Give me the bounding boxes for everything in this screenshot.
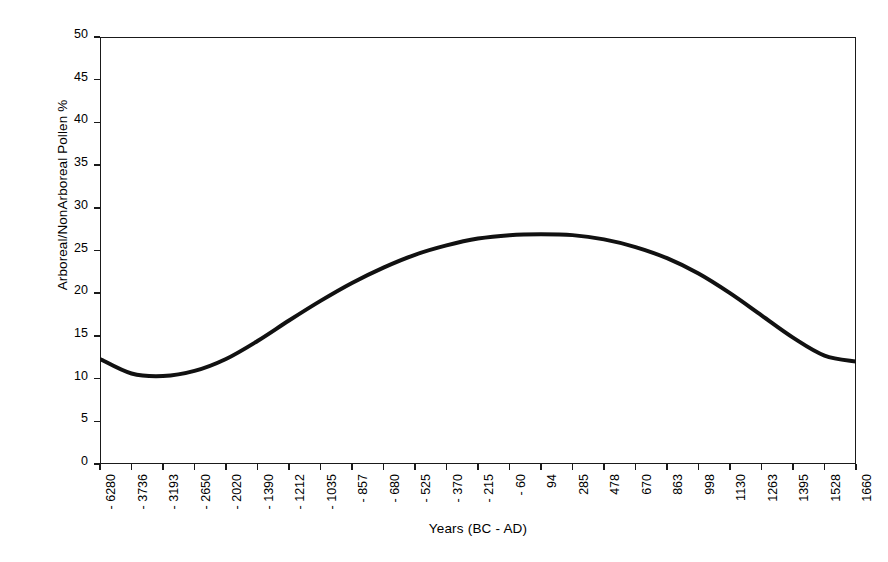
x-axis-tick-mark [225,464,227,470]
y-axis-tick-label: 35 [74,156,88,169]
y-axis-tick-label: 20 [74,284,88,297]
x-axis-tick-label: 998 [704,474,717,495]
x-axis-tick-mark [698,464,700,470]
x-axis-tick-mark [99,464,101,470]
x-axis-tick-label: - 680 [389,474,402,503]
x-axis-tick-label: - 1390 [263,474,276,509]
x-axis-tick-mark [729,464,731,470]
x-axis-tick-mark [824,464,826,470]
y-axis-tick-label: 50 [74,28,88,41]
pollen-percentage-line-chart: Arboreal/NonArboreal Pollen % 0510152025… [0,0,888,562]
x-axis-tick-mark [540,464,542,470]
x-axis-tick-label: 1395 [798,474,811,502]
x-axis-tick-mark [162,464,164,470]
x-axis-tick-mark [194,464,196,470]
x-axis-tick-label: 1528 [830,474,843,502]
x-axis-tick-label: 670 [641,474,654,495]
x-axis-tick-label: 285 [578,474,591,495]
x-axis-title: Years (BC - AD) [100,521,856,536]
x-axis-tick-mark [383,464,385,470]
plot-area [100,37,856,464]
x-axis-tick-mark [446,464,448,470]
x-axis-tick-mark [509,464,511,470]
x-axis-tick-label: - 215 [483,474,496,503]
x-axis-tick-label: 94 [546,474,559,488]
x-axis-tick-label: - 525 [420,474,433,503]
x-axis-tick-mark [288,464,290,470]
x-axis-tick-label: 1130 [735,474,748,501]
x-axis-tick-mark [414,464,416,470]
x-axis-tick-mark [855,464,857,470]
x-axis-tick-label: - 2020 [231,474,244,509]
x-axis-tick-mark [792,464,794,470]
x-axis-tick-mark [320,464,322,470]
y-axis-tick-label: 45 [74,71,88,84]
x-axis-tick-mark [761,464,763,470]
x-axis-tick-mark [131,464,133,470]
y-axis-tick-label: 40 [74,113,88,126]
x-axis-tick-mark [635,464,637,470]
x-axis-tick-mark [351,464,353,470]
x-axis-tick-label: - 2650 [200,474,213,509]
x-axis-tick-label: - 370 [452,474,465,503]
x-axis-tick-label: - 60 [515,474,528,496]
y-axis-tick-label: 30 [74,199,88,212]
x-axis-tick-mark [572,464,574,470]
x-axis-tick-label: 1660 [861,474,874,502]
x-axis-tick-label: 863 [672,474,685,495]
x-axis-tick-label: - 3736 [137,474,150,509]
x-axis-tick-label: - 3193 [168,474,181,509]
y-axis-tick-label: 5 [81,412,88,425]
x-axis-tick-label: 478 [609,474,622,495]
x-axis-tick-label: - 857 [357,474,370,503]
x-axis-tick-mark [603,464,605,470]
y-axis-tick-label: 10 [74,370,88,383]
x-axis-tick-label: - 6280 [105,474,118,509]
x-axis-tick-mark [257,464,259,470]
x-axis-tick-label: 1263 [767,474,780,502]
x-axis-tick-label: - 1212 [294,474,307,509]
y-axis-tick-label: 0 [81,455,88,468]
x-axis-tick-mark [666,464,668,470]
y-axis-tick-label: 25 [74,242,88,255]
y-axis-tick-label: 15 [74,327,88,340]
x-axis-tick-mark [477,464,479,470]
x-axis-tick-label: - 1035 [326,474,339,509]
